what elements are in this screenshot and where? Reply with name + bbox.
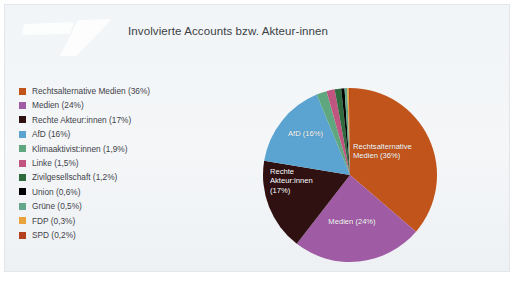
pie-slice-label-afd: AfD (16%) — [288, 129, 342, 138]
legend-swatch-icon — [19, 145, 26, 152]
legend-item-label: Medien (24%) — [32, 101, 84, 109]
pie-slice-label-medien: Medien (24%) — [317, 217, 387, 226]
legend-swatch-icon — [19, 131, 26, 138]
legend-item-label: FDP (0,3%) — [32, 217, 75, 225]
legend-item[interactable]: FDP (0,3%) — [19, 214, 224, 228]
legend-item-label: Klimaaktivist:innen (1,9%) — [32, 145, 127, 153]
legend-swatch-icon — [19, 174, 26, 181]
legend-swatch-icon — [19, 188, 26, 195]
legend-swatch-icon — [19, 160, 26, 167]
legend-item-label: Rechte Akteur:innen (17%) — [32, 116, 131, 124]
legend-item-label: Zivilgesellschaft (1,2%) — [32, 173, 117, 181]
legend-item[interactable]: Zivilgesellschaft (1,2%) — [19, 170, 224, 184]
legend-item-label: Rechtsalternative Medien (36%) — [32, 87, 150, 95]
pie-chart: Rechtsalternative Medien (36%) Medien (2… — [260, 85, 440, 265]
legend-item-label: Grüne (0,5%) — [32, 202, 82, 210]
pie-slice-label-rechtsalternative-medien: Rechtsalternative Medien (36%) — [353, 142, 429, 161]
legend-item[interactable]: Linke (1,5%) — [19, 156, 224, 170]
legend-swatch-icon — [19, 232, 26, 239]
legend-item[interactable]: SPD (0,2%) — [19, 228, 224, 242]
legend-swatch-icon — [19, 203, 26, 210]
legend-swatch-icon — [19, 102, 26, 109]
legend-swatch-icon — [19, 217, 26, 224]
legend-item-label: AfD (16%) — [32, 130, 70, 138]
legend-item-label: SPD (0,2%) — [32, 231, 76, 239]
legend-item[interactable]: Rechtsalternative Medien (36%) — [19, 84, 224, 98]
slide-canvas: Involvierte Accounts bzw. Akteur-innen R… — [0, 0, 514, 285]
legend-item[interactable]: Klimaaktivist:innen (1,9%) — [19, 142, 224, 156]
legend-item-label: Linke (1,5%) — [32, 159, 79, 167]
legend-item[interactable]: Union (0,6%) — [19, 185, 224, 199]
legend-item[interactable]: Medien (24%) — [19, 98, 224, 112]
chart-legend: Rechtsalternative Medien (36%) Medien (2… — [19, 84, 224, 242]
chart-title: Involvierte Accounts bzw. Akteur-innen — [128, 25, 428, 37]
legend-item[interactable]: Grüne (0,5%) — [19, 199, 224, 213]
legend-swatch-icon — [19, 116, 26, 123]
legend-item-label: Union (0,6%) — [32, 188, 80, 196]
legend-item[interactable]: Rechte Akteur:innen (17%) — [19, 113, 224, 127]
legend-item[interactable]: AfD (16%) — [19, 127, 224, 141]
pie-slice-label-rechte-akteurinnen: Rechte Akteur:innen (17%) — [270, 167, 330, 195]
legend-swatch-icon — [19, 88, 26, 95]
